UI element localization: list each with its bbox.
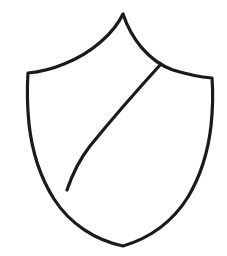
shield-illustration: [0, 0, 227, 256]
drawing-canvas: Heraldic Shield Outline: [0, 0, 227, 256]
